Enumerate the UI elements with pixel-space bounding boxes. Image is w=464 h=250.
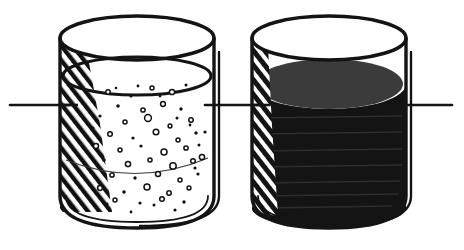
bubble xyxy=(110,173,114,177)
bubble xyxy=(98,114,101,117)
bubble xyxy=(196,172,199,175)
bubble xyxy=(176,117,179,120)
bubble xyxy=(184,146,188,150)
bubble xyxy=(123,120,127,124)
bubble xyxy=(191,159,196,164)
bubble xyxy=(153,129,159,135)
bubble xyxy=(98,186,103,191)
bubble xyxy=(102,158,106,162)
bubble xyxy=(125,161,130,166)
bubble xyxy=(115,87,118,90)
bubble xyxy=(145,115,152,122)
bubble xyxy=(130,211,133,214)
bubble xyxy=(144,184,150,190)
bubble xyxy=(179,107,182,110)
bubble xyxy=(189,124,192,127)
bubble xyxy=(198,144,201,147)
bubble xyxy=(137,85,140,88)
bubble xyxy=(161,102,166,107)
bubble xyxy=(169,89,174,94)
bubble xyxy=(182,200,185,203)
bubble xyxy=(193,166,196,169)
bubble xyxy=(150,86,154,90)
bubble xyxy=(138,201,141,204)
bubble xyxy=(199,154,204,159)
bubble xyxy=(108,132,113,137)
bubble xyxy=(141,108,145,112)
bubble xyxy=(139,144,142,147)
figure-canvas: Hand-drawn line illustration of two cyli… xyxy=(0,0,464,250)
bubble xyxy=(153,204,156,207)
bubble xyxy=(106,203,109,206)
bubble xyxy=(185,84,188,87)
bubble xyxy=(168,124,172,128)
bubble xyxy=(173,208,176,211)
bubble xyxy=(89,170,93,174)
bubble xyxy=(161,149,167,155)
bubble xyxy=(159,95,162,98)
bubble xyxy=(194,131,197,134)
bubble xyxy=(160,197,165,202)
bubble xyxy=(129,94,132,97)
bubble xyxy=(176,138,180,142)
bubble xyxy=(187,186,191,190)
bubble xyxy=(133,176,136,179)
bubble xyxy=(94,144,99,149)
bubble xyxy=(113,198,117,202)
bubble xyxy=(148,158,152,162)
two-beakers-illustration xyxy=(0,0,464,250)
bubble xyxy=(118,148,122,152)
bubble xyxy=(203,130,206,133)
bubble xyxy=(156,172,161,177)
bubble xyxy=(178,178,182,182)
bubble xyxy=(122,190,126,194)
bubble xyxy=(116,104,120,108)
bubble xyxy=(189,118,193,122)
bubble xyxy=(131,136,134,139)
bubble xyxy=(106,90,110,94)
bubble xyxy=(167,191,171,195)
bubble xyxy=(92,127,95,130)
bubble xyxy=(170,163,176,169)
